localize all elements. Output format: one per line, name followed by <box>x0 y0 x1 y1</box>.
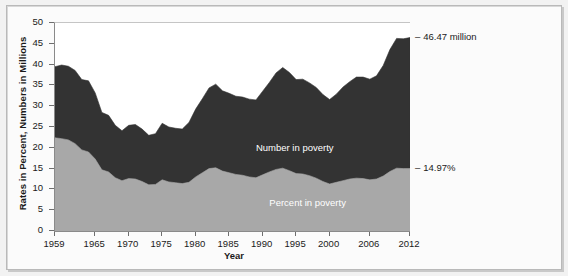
callout-text: 46.47 million <box>423 31 476 42</box>
callout-dash-icon: – <box>415 162 420 173</box>
area-series-group <box>55 23 410 231</box>
x-tick-label: 2000 <box>307 238 351 249</box>
x-tick-label: 1959 <box>32 238 76 249</box>
callout-46-47-million: –46.47 million <box>415 31 477 42</box>
series-label-percent-in-poverty: Percent in poverty <box>269 197 346 208</box>
y-tick-label: 50 <box>9 16 43 27</box>
plot-area: Number in poverty Percent in poverty <box>54 22 410 232</box>
x-tick-label: 2006 <box>347 238 391 249</box>
x-tick-label: 2012 <box>387 238 431 249</box>
y-tick-label: 20 <box>9 141 43 152</box>
callout-text: 14.97% <box>423 162 455 173</box>
callout-dash-icon: – <box>415 31 420 42</box>
y-tick-label: 10 <box>9 182 43 193</box>
y-tick-label: 35 <box>9 78 43 89</box>
y-tick-label: 30 <box>9 99 43 110</box>
y-tick-label: 15 <box>9 162 43 173</box>
y-tick-label: 0 <box>9 224 43 235</box>
y-tick-label: 45 <box>9 37 43 48</box>
callout-14-97: –14.97% <box>415 162 456 173</box>
y-tick-label: 40 <box>9 58 43 69</box>
series-label-number-in-poverty: Number in poverty <box>256 142 334 153</box>
y-tick-label: 5 <box>9 203 43 214</box>
y-tick-label: 25 <box>9 120 43 131</box>
poverty-chart-figure: Rates in Percent, Numbers in Millions Ye… <box>0 0 568 276</box>
x-axis-title: Year <box>54 250 414 261</box>
